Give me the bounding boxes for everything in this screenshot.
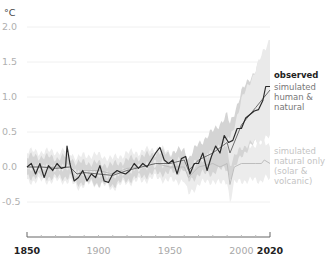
y-axis-unit: °C	[4, 7, 15, 18]
y-tick-label: 1.5	[2, 57, 17, 67]
x-tick-label: 2000	[229, 245, 253, 256]
y-tick-label: 0.5	[2, 127, 17, 137]
x-tick-label: 1850	[14, 245, 40, 256]
y-tick-label: 1.0	[2, 92, 17, 102]
legend-observed: observed	[274, 70, 318, 80]
uncertainty-bands	[27, 40, 270, 202]
legend-simulated-human-natural: simulated human & natural	[274, 82, 328, 112]
chart-canvas	[0, 0, 328, 269]
x-tick-label: 1900	[86, 245, 110, 256]
y-tick-label: 0.0	[2, 162, 17, 172]
legend-simulated-natural-only: simulated natural only (solar & volcanic…	[274, 146, 328, 186]
x-tick-label: 2020	[257, 245, 283, 256]
y-tick-label: 2.0	[2, 22, 17, 32]
y-tick-label: -0.5	[2, 197, 21, 207]
x-tick-label: 1950	[158, 245, 182, 256]
x-axis	[27, 232, 270, 237]
